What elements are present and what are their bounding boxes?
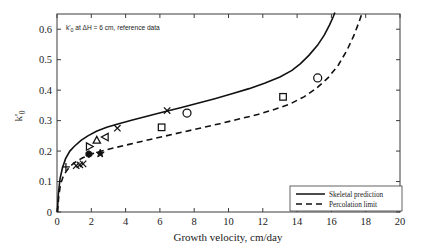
legend-label-skeletal-prediction: Skeletal prediction	[329, 191, 383, 199]
x-axis-ticks	[57, 14, 400, 212]
svg-text:k'0 at ΔH = 6 cm, reference da: k'0 at ΔH = 6 cm, reference data	[66, 24, 160, 33]
marker-triangle-left	[101, 133, 108, 140]
marker-x	[114, 125, 120, 131]
legend: Skeletal prediction Percolation limit	[290, 186, 402, 211]
marker-square	[280, 94, 287, 101]
x-axis-title: Growth velocity, cm/day	[174, 231, 283, 243]
x-axis-tick-labels: 02468101214161820	[54, 216, 405, 227]
x-tick-label: 0	[54, 216, 59, 227]
y-axis-tick-labels: 00.10.20.30.40.50.6	[39, 24, 53, 218]
y-axis-ticks	[57, 29, 400, 212]
y-tick-label: 0.1	[39, 176, 52, 187]
x-tick-label: 8	[192, 216, 197, 227]
svg-text:k'0: k'0	[12, 110, 27, 121]
plot-frame	[57, 14, 400, 212]
y-tick-label: 0.6	[39, 24, 52, 35]
x-tick-label: 20	[395, 216, 406, 227]
marker-circle	[183, 109, 191, 117]
x-tick-label: 4	[123, 216, 129, 227]
scatter-markers	[62, 74, 322, 171]
x-tick-label: 2	[89, 216, 94, 227]
marker-hexagon-filled	[86, 151, 92, 158]
x-tick-label: 16	[326, 216, 337, 227]
y-tick-label: 0.5	[39, 54, 52, 65]
annotation-rest: at ΔH = 6 cm, reference data	[73, 24, 160, 31]
x-tick-label: 12	[258, 216, 269, 227]
legend-label-percolation-limit: Percolation limit	[329, 201, 377, 209]
series-line-percolation-limit	[58, 12, 363, 212]
y-axis-title-subscript: 0	[18, 110, 27, 114]
x-tick-label: 18	[360, 216, 371, 227]
y-tick-label: 0.3	[39, 115, 52, 126]
marker-triangle-right	[86, 143, 93, 150]
plot-annotation: k'0 at ΔH = 6 cm, reference data	[66, 24, 160, 33]
y-tick-label: 0	[47, 207, 52, 218]
marker-triangle-up	[93, 136, 100, 143]
y-axis-title-symbol: k'	[12, 114, 24, 122]
y-tick-label: 0.4	[39, 85, 53, 96]
marker-square	[158, 124, 165, 131]
series-line-skeletal-prediction	[57, 12, 334, 212]
figure-container: 02468101214161820 00.10.20.30.40.50.6 k'…	[0, 0, 429, 249]
x-tick-label: 6	[157, 216, 162, 227]
y-axis-title: k'0	[12, 110, 27, 121]
x-tick-label: 10	[223, 216, 234, 227]
marker-circle	[314, 74, 322, 82]
chart-canvas: 02468101214161820 00.10.20.30.40.50.6 k'…	[0, 0, 429, 249]
y-tick-label: 0.2	[39, 146, 52, 157]
x-tick-label: 14	[292, 216, 303, 227]
